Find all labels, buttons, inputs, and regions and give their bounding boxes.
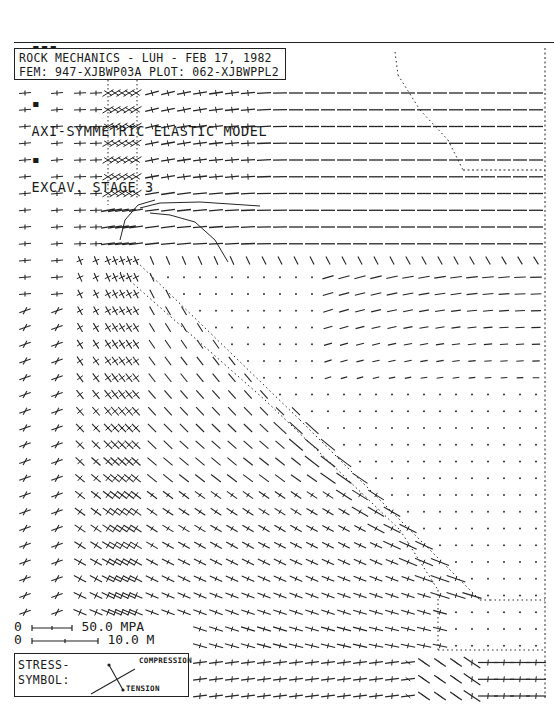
stress-symbol-legend: STRESS- SYMBOL: COMPRESSION TENSION (14, 653, 189, 697)
scale-bars: 0 50.0 MPA 0 10.0 M (14, 620, 214, 650)
tension-label: TENSION (126, 684, 160, 693)
stress-scale-bar-icon (30, 623, 74, 633)
length-scale: 0 10.0 M (14, 633, 154, 646)
compression-label: COMPRESSION (139, 656, 192, 665)
plot-info-box: ROCK MECHANICS - LUH - FEB 17, 1982 FEM:… (14, 48, 286, 80)
info-line-1: ROCK MECHANICS - LUH - FEB 17, 1982 (19, 51, 281, 65)
info-line-2: FEM: 947-XJBWP03A PLOT: 062-XJBWPPL2 (19, 65, 281, 79)
length-scale-bar-icon (30, 636, 100, 646)
